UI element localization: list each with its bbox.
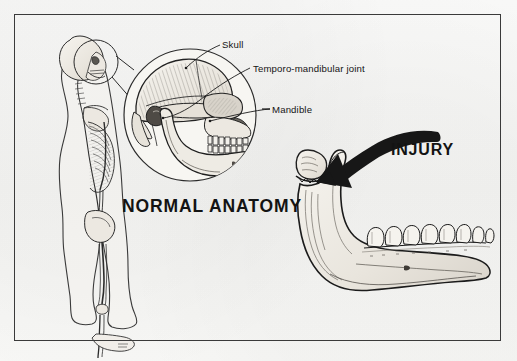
leader-tmj-dot <box>162 117 165 120</box>
medical-illustration-plate: NORMAL ANATOMY INJURY Skull Temporo-mand… <box>0 0 517 361</box>
callout-label-temporo-mandibular-joint: Temporo-mandibular joint <box>253 63 365 74</box>
injury-arrow <box>316 131 441 188</box>
leader-mandible-dot <box>209 120 212 123</box>
tooth <box>439 224 455 243</box>
illustration-artwork <box>0 0 517 361</box>
callout-label-mandible: Mandible <box>272 104 312 115</box>
callout-label-skull: Skull <box>222 39 244 50</box>
tooth <box>421 224 438 244</box>
magnifier-tangent-upper <box>116 56 134 70</box>
tooth <box>473 227 484 243</box>
tooth <box>385 226 402 246</box>
tooth <box>456 224 471 243</box>
leader-skull-dot <box>185 67 188 70</box>
skull-orbit <box>92 57 99 65</box>
mandible-teeth-row <box>367 224 494 247</box>
tooth <box>403 225 420 245</box>
tooth <box>486 229 494 243</box>
knee-joint <box>96 304 108 314</box>
tooth <box>367 227 384 247</box>
caption-injury: INJURY <box>391 141 454 159</box>
femur <box>102 242 104 304</box>
caption-normal-anatomy: NORMAL ANATOMY <box>122 196 302 217</box>
